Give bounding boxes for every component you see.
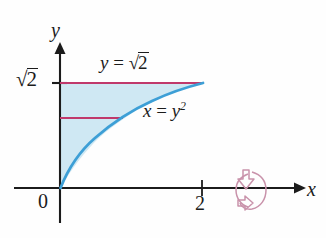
figure-container: y x 0 2 √2 y = √2 x = y2 bbox=[0, 0, 326, 238]
curve-eq-rhs-exponent: 2 bbox=[180, 100, 186, 113]
sqrt-radical-group: √2 bbox=[16, 68, 38, 90]
y-axis-label: y bbox=[51, 20, 60, 40]
y-axis-arrowhead bbox=[55, 42, 66, 54]
y-tick-label-sqrt2: √2 bbox=[16, 68, 38, 90]
shaded-region bbox=[60, 83, 202, 188]
curve-eq-operator: = bbox=[156, 100, 167, 121]
origin-label: 0 bbox=[38, 191, 48, 211]
x-tick-label-2: 2 bbox=[195, 193, 205, 213]
curve-eq-rhs-base: y bbox=[172, 100, 180, 121]
rotation-about-x-axis-arrow bbox=[236, 170, 266, 210]
line-eq-radical-group: √2 bbox=[129, 52, 149, 72]
curve-equation-label: x = y2 bbox=[143, 101, 186, 120]
radical-body: 2 bbox=[27, 68, 39, 90]
line-eq-radical-body: 2 bbox=[138, 52, 149, 72]
x-axis-arrowhead bbox=[294, 183, 306, 194]
x-axis-label: x bbox=[307, 179, 316, 199]
line-equation-label: y = √2 bbox=[100, 52, 149, 72]
curve-eq-lhs: x bbox=[143, 100, 151, 121]
line-eq-operator: = bbox=[113, 52, 124, 73]
line-eq-lhs: y bbox=[100, 52, 108, 73]
